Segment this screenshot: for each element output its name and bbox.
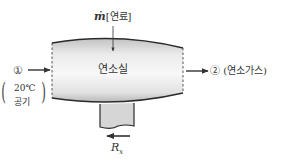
inlet-temperature: 20℃: [14, 83, 36, 93]
outlet-gas-label: (연소가스): [223, 65, 267, 76]
left-paren: (: [1, 80, 6, 104]
inlet-state-label: ①: [13, 65, 23, 76]
reaction-force-label: Rx: [111, 142, 123, 156]
reaction-force-subscript: x: [119, 148, 123, 156]
outlet-state-number: ②: [210, 65, 220, 76]
fuel-label: ṁ[연료]: [94, 11, 131, 22]
chamber-label: 연소실: [98, 64, 128, 75]
outlet-state-label: ② (연소가스): [210, 66, 267, 76]
support-stand: [100, 103, 134, 128]
inlet-condition: ( 20℃ 공기 ): [2, 82, 48, 106]
inlet-fluid: 공기: [14, 95, 30, 108]
right-paren: ): [41, 80, 46, 104]
fuel-mass-flow-symbol: ṁ: [94, 10, 106, 23]
fuel-label-text: [연료]: [106, 11, 132, 22]
